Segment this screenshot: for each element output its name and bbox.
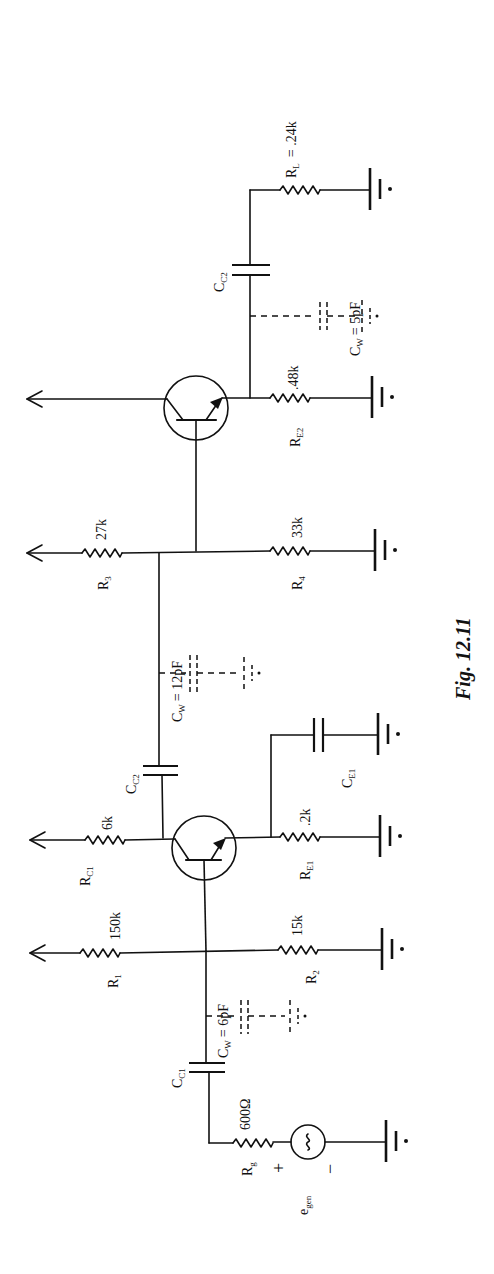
rl-resistor-icon xyxy=(280,186,320,194)
q1-bias-network xyxy=(30,928,404,970)
re2-resistor-icon xyxy=(270,394,310,402)
re2-label: RE2 xyxy=(288,428,305,447)
r3-resistor-icon xyxy=(82,549,122,557)
figure-caption: Fig. 12.11 xyxy=(452,617,475,701)
ground-icon xyxy=(375,529,397,571)
cc1-label: CC1 xyxy=(170,1068,187,1088)
stray-ground-icon xyxy=(362,300,379,332)
output-load-branch xyxy=(232,168,392,398)
stray-ground-icon xyxy=(244,657,261,689)
cw1-label: CW= 6pF xyxy=(216,1004,233,1058)
source-plus-label: + xyxy=(269,1163,289,1173)
rg-value-label: 600Ω xyxy=(238,1099,253,1130)
ground-icon xyxy=(382,928,404,970)
r3-value-label: 27k xyxy=(94,519,109,540)
cw3-label: CW= 5pF xyxy=(348,302,365,356)
cc2-interstage-label: CC2 xyxy=(124,774,141,794)
rg-resistor-icon xyxy=(233,1139,273,1147)
rc1-resistor-icon xyxy=(85,836,125,844)
re2-value-label: .48k xyxy=(286,366,301,391)
r3-label: R3 xyxy=(96,576,113,590)
re1-label: RE1 xyxy=(298,861,315,880)
r2-label: R2 xyxy=(304,970,321,984)
ce1-label: CE1 xyxy=(340,769,357,788)
rl-label: RL= .24k xyxy=(284,121,301,178)
re1-value-label: .2k xyxy=(298,809,313,827)
source-minus-label: − xyxy=(320,1164,340,1174)
rc1-label: RC1 xyxy=(78,866,95,886)
ground-icon xyxy=(380,815,402,857)
r1-resistor-icon xyxy=(80,949,120,957)
cc2-output-label: CC2 xyxy=(212,272,229,292)
r4-resistor-icon xyxy=(270,547,310,555)
cw2-label: CW= 12pF xyxy=(170,661,187,722)
amplifier-schematic: RL= .24k CC2 CW= 5pF .48k RE2 xyxy=(0,0,494,1274)
ground-icon xyxy=(372,376,394,418)
stray-ground-icon xyxy=(290,1000,307,1032)
ground-icon xyxy=(378,713,400,755)
q2-bias-network xyxy=(27,529,397,571)
r4-label: R4 xyxy=(290,576,307,590)
r1-label: R1 xyxy=(106,974,123,988)
source-label: egen xyxy=(296,1195,313,1215)
ground-icon xyxy=(386,1120,408,1162)
interstage-coupling xyxy=(143,553,261,838)
r2-value-label: 15k xyxy=(290,915,305,936)
rg-label: Rg xyxy=(240,1162,257,1176)
rc1-value-label: 6k xyxy=(100,816,115,830)
ground-icon xyxy=(370,168,392,210)
r4-value-label: 33k xyxy=(290,517,305,538)
r2-resistor-icon xyxy=(278,946,318,954)
transistor-q2 xyxy=(27,376,394,551)
r1-value-label: 150k xyxy=(108,912,123,940)
re1-resistor-icon xyxy=(280,833,320,841)
transistor-q1 xyxy=(30,713,402,951)
